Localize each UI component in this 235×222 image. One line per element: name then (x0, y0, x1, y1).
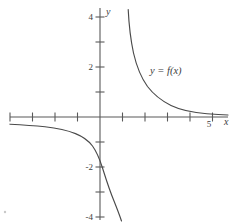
x-axis-label: x (223, 116, 229, 127)
y-tick-label-2: 2 (89, 62, 94, 72)
y-tick-label-neg2: -2 (86, 162, 94, 172)
function-annotation-label: y = f(x) (149, 65, 182, 77)
graph-figure: y x 5 4 2 -2 -4 y = f(x) (0, 0, 235, 222)
function-curve-right-branch (128, 10, 228, 116)
coordinate-plane-svg: y x 5 4 2 -2 -4 y = f(x) (0, 0, 235, 222)
y-tick-label-4: 4 (89, 12, 94, 22)
y-tick-label-neg4: -4 (86, 212, 94, 222)
scan-speck-artifact (4, 211, 6, 213)
y-axis-label: y (105, 6, 111, 17)
function-curve-left-branch (10, 124, 122, 221)
x-tick-label-5: 5 (207, 119, 212, 129)
